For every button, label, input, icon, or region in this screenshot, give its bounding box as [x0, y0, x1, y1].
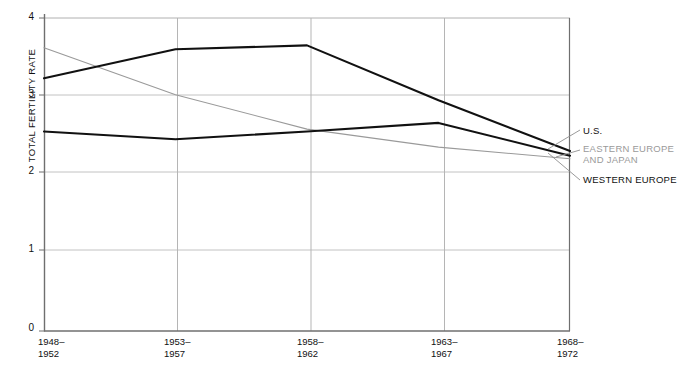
x-tick-label-0-line1: 1948–: [38, 336, 64, 348]
legend-label-eastern-europe-line2: AND JAPAN: [583, 154, 674, 165]
x-tick-label-4-line2: 1972: [557, 348, 583, 360]
fertility-rate-line-chart: [0, 0, 682, 370]
y-axis-ticks: [39, 18, 44, 331]
x-tick-label-3-line2: 1967: [431, 348, 457, 360]
x-tick-label-4: 1968– 1972: [557, 336, 583, 359]
x-tick-label-4-line1: 1968–: [557, 336, 583, 348]
y-tick-label-1: 1: [16, 243, 34, 254]
x-tick-label-1-line1: 1953–: [164, 336, 190, 348]
legend-label-eastern-europe-line1: EASTERN EUROPE: [583, 143, 674, 154]
legend-label-eastern-europe-and-japan: EASTERN EUROPE AND JAPAN: [583, 143, 674, 165]
y-tick-label-3: 3: [16, 88, 34, 99]
x-tick-label-0: 1948– 1952: [38, 336, 64, 359]
legend-label-us: U.S.: [583, 125, 602, 136]
plot-background: [44, 18, 570, 331]
x-tick-label-0-line2: 1952: [38, 348, 64, 360]
x-tick-label-1: 1953– 1957: [164, 336, 190, 359]
x-tick-label-2: 1958– 1962: [297, 336, 323, 359]
y-tick-label-4: 4: [16, 11, 34, 22]
y-tick-label-2: 2: [16, 165, 34, 176]
chart-figure: TOTAL FERTILITY RATE 4 3 2 1 0 1948– 195…: [0, 0, 682, 370]
x-tick-label-2-line2: 1962: [297, 348, 323, 360]
x-tick-label-3-line1: 1963–: [431, 336, 457, 348]
x-tick-label-1-line2: 1957: [164, 348, 190, 360]
legend-label-western-europe: WESTERN EUROPE: [583, 174, 677, 185]
x-tick-label-3: 1963– 1967: [431, 336, 457, 359]
y-tick-label-0: 0: [16, 322, 34, 333]
x-tick-label-2-line1: 1958–: [297, 336, 323, 348]
